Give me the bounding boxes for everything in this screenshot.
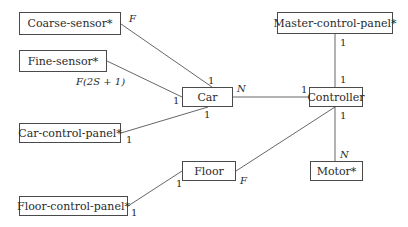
multiplicity-label: 1 — [173, 96, 179, 106]
multiplicity-label: 1 — [340, 38, 346, 48]
floor-entity[interactable]: Floor — [182, 161, 236, 181]
master-control-panel-entity[interactable]: Master-control-panel* — [277, 12, 393, 34]
multiplicity-label: 1 — [301, 85, 307, 95]
floor-panel-to-floor-line — [128, 171, 182, 206]
coarse-sensor-entity[interactable]: Coarse-sensor* — [19, 12, 121, 35]
multiplicity-label: 1 — [126, 135, 132, 145]
car-entity[interactable]: Car — [182, 87, 233, 107]
car-panel-to-car-line — [121, 107, 208, 133]
multiplicity-label: N — [237, 84, 246, 94]
floor-control-panel-label: Floor-control-panel* — [17, 200, 130, 213]
multiplicity-label: F — [129, 14, 136, 24]
fine-sensor-label: Fine-sensor* — [28, 55, 99, 68]
multiplicity-label: F(2S + 1) — [76, 77, 125, 87]
multiplicity-label: N — [340, 150, 349, 160]
multiplicity-label: 1 — [176, 179, 182, 189]
car-label: Car — [197, 91, 217, 104]
multiplicity-label: F — [240, 176, 247, 186]
floor-label: Floor — [194, 165, 224, 178]
multiplicity-label: 1 — [204, 110, 210, 120]
coarse-sensor-label: Coarse-sensor* — [28, 17, 113, 30]
motor-entity[interactable]: Motor* — [310, 161, 363, 181]
multiplicity-label: 1 — [208, 76, 214, 86]
controller-label: Controller — [307, 91, 364, 104]
coarse-to-car-line — [121, 24, 212, 87]
motor-label: Motor* — [317, 165, 357, 178]
multiplicity-label: 1 — [340, 75, 346, 85]
multiplicity-label: 1 — [340, 111, 346, 121]
fine-sensor-entity[interactable]: Fine-sensor* — [19, 50, 107, 72]
floor-control-panel-entity[interactable]: Floor-control-panel* — [19, 196, 128, 216]
car-control-panel-label: Car-control-panel* — [18, 127, 122, 140]
multiplicity-label: 1 — [131, 208, 137, 218]
car-control-panel-entity[interactable]: Car-control-panel* — [19, 123, 121, 143]
controller-entity[interactable]: Controller — [309, 87, 363, 107]
master-control-panel-label: Master-control-panel* — [274, 17, 397, 30]
